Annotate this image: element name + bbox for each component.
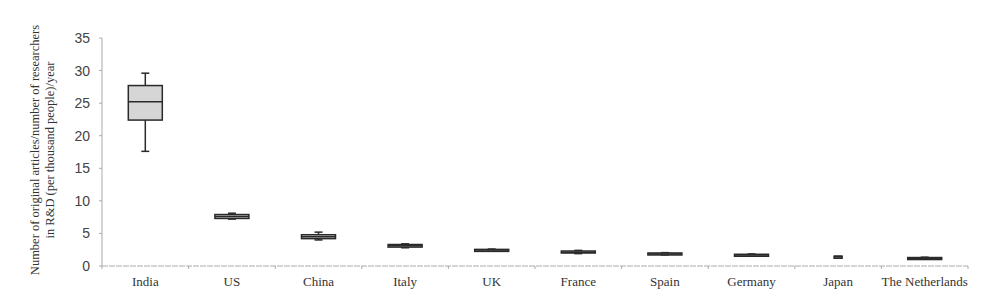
box-japan [834,256,842,258]
box-plot-chart: Number of original articles/number of re… [0,0,996,308]
box-germany [735,254,769,256]
box-china [302,232,336,240]
box-us [215,213,249,219]
x-category-label: The Netherlands [882,274,968,289]
y-axis-title: Number of original articles/number of re… [28,25,57,275]
y-axis-title-line: in R&D (per thousand people)/year [43,61,57,239]
x-category-label: Germany [727,274,776,289]
x-category-label: India [132,274,159,289]
box-italy [388,244,422,248]
y-tick-label: 5 [82,225,90,241]
y-tick-label: 0 [82,258,90,274]
x-category-label: Spain [650,274,680,289]
y-tick-label: 20 [74,128,90,144]
box-spain [648,253,682,255]
y-tick-label: 30 [74,63,90,79]
y-axis-title-line: Number of original articles/number of re… [28,25,42,275]
x-axis: IndiaUSChinaItalyUKFranceSpainGermanyJap… [102,266,968,289]
box-uk [475,249,509,251]
y-axis: 05101520253035 [74,30,102,274]
x-category-label: Italy [393,274,417,289]
x-category-label: US [224,274,241,289]
x-category-label: Japan [823,274,853,289]
box-series [128,73,941,259]
box-france [561,250,595,253]
y-tick-label: 35 [74,30,90,46]
y-tick-label: 25 [74,95,90,111]
y-tick-label: 15 [74,160,90,176]
x-category-label: China [303,274,334,289]
box-india [128,73,162,151]
x-category-label: France [561,274,597,289]
y-tick-label: 10 [74,193,90,209]
box-the-netherlands [908,257,942,259]
x-category-label: UK [482,274,501,289]
